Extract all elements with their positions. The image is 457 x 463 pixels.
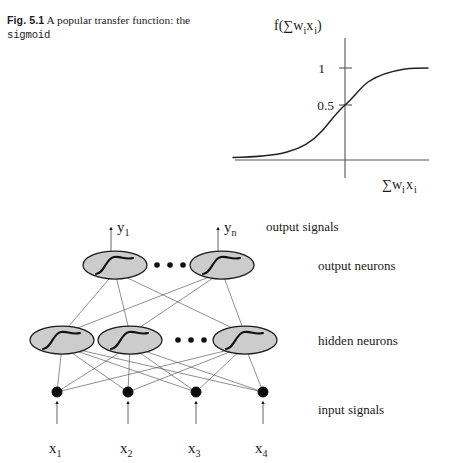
plot-y-axis-label: f(∑wixi)	[274, 18, 322, 36]
hidden-neuron	[30, 326, 94, 354]
label-hidden-neurons: hidden neurons	[318, 333, 398, 348]
plot-x-axis-label: ∑wixi	[382, 177, 417, 195]
hidden-neuron	[98, 326, 162, 354]
input-signal-label: x2	[120, 440, 133, 459]
output-layer-ellipsis	[154, 262, 186, 268]
output-neuron	[83, 251, 147, 279]
neural-network-diagram: y1 yn x1 x2	[0, 212, 457, 463]
output-neuron	[190, 251, 254, 279]
label-output-signals: output signals	[266, 219, 339, 234]
input-node	[258, 387, 268, 397]
input-signal-label: x4	[255, 440, 268, 459]
label-output-neurons: output neurons	[318, 258, 396, 273]
input-node	[123, 387, 133, 397]
input-signal-label: x3	[188, 440, 201, 459]
connections-hidden-to-output	[62, 272, 245, 334]
plot-tick-label-half: 0.5	[317, 98, 334, 113]
hidden-layer-ellipsis	[175, 337, 207, 343]
plot-tick-label-one: 1	[318, 61, 325, 76]
input-signal-label: x1	[49, 440, 62, 459]
figure-container: Fig. 5.1 A popular transfer function: th…	[0, 0, 457, 463]
input-node	[191, 387, 201, 397]
hidden-neuron	[213, 326, 277, 354]
input-node	[52, 387, 62, 397]
output-signal-label: yn	[224, 219, 237, 238]
sigmoid-plot: f(∑wixi) ∑wixi 1 0.5	[0, 0, 457, 215]
output-signal-label: y1	[117, 219, 130, 238]
label-input-signals: input signals	[318, 402, 384, 417]
